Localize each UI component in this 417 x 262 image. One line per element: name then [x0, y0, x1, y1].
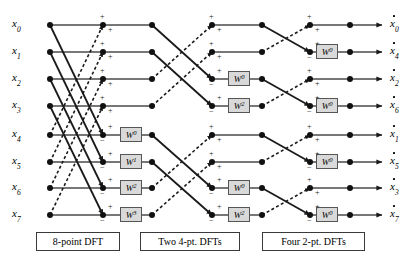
s1-plus-in-row0: + — [108, 26, 113, 34]
input-label-x3: x3 — [12, 98, 21, 113]
s3-plus-in-row2: + — [315, 80, 320, 88]
twiddle-exp-s3-r1: 0 — [329, 46, 332, 53]
s2-minus-row2: − — [209, 81, 214, 89]
input-label-x6-sub: 6 — [17, 188, 21, 197]
output-label-4-sub: 1 — [395, 135, 399, 144]
s3-plus-row6: + — [307, 176, 312, 184]
caption-two-4pt-dfts: Two 4-pt. DFTs — [140, 232, 240, 251]
s3-plus-row0: + — [307, 13, 312, 21]
s1-minus-row5: − — [100, 164, 105, 172]
twiddle-base-s3-r5: W — [322, 157, 330, 167]
s3-minus-row1: − — [307, 54, 312, 62]
twiddle-exp-s2-r6: 0 — [241, 182, 244, 189]
output-label-5: x5 — [390, 154, 399, 169]
s3-minus-row5: − — [307, 164, 312, 172]
s2-plus-row5: + — [209, 150, 214, 158]
stage2-out-node-row1 — [259, 49, 265, 55]
s1-plus-row4: + — [108, 123, 113, 131]
stage3-out-node-row3 — [347, 103, 353, 109]
stage3-node-row0 — [307, 22, 313, 28]
input-label-x2: x2 — [12, 71, 21, 86]
stage1-out-node-row3 — [149, 103, 155, 109]
twiddle-box-s2-r7: W2 — [228, 207, 250, 222]
twiddle-box-s2-r2: W0 — [228, 71, 250, 86]
twiddle-base-s2-r3: W — [234, 101, 242, 111]
output-label-3-sub: 6 — [395, 106, 399, 115]
input-node-row2 — [47, 76, 53, 82]
stage3-out-node-row1 — [347, 49, 353, 55]
stage1-out-node-row4 — [149, 132, 155, 138]
output-label-2-sub: 2 — [395, 79, 399, 88]
twiddle-box-s2-r3: W2 — [228, 98, 250, 113]
s3-plus-in-row4: + — [315, 136, 320, 144]
input-label-x0-sub: 0 — [17, 25, 21, 34]
output-label-6-sub: 3 — [395, 188, 399, 197]
caption-8-point-dft: 8-point DFT — [36, 232, 120, 251]
stage1-out-node-row1 — [149, 49, 155, 55]
input-node-row3 — [47, 103, 53, 109]
stage2-out-node-row3 — [259, 103, 265, 109]
s3-plus-row3: + — [315, 94, 320, 102]
input-label-x7-sub: 7 — [17, 215, 21, 224]
s3-plus-row1: + — [315, 40, 320, 48]
twiddle-exp-s3-r7: 0 — [329, 209, 332, 216]
caption-8-point-dft-text: 8-point DFT — [53, 236, 103, 247]
output-label-3: x6 — [390, 98, 399, 113]
input-label-x2-sub: 2 — [17, 79, 21, 88]
output-label-2: x2 — [390, 71, 399, 86]
s2-plus-row1: + — [209, 40, 214, 48]
input-label-x5-sub: 5 — [17, 162, 21, 171]
s1-plus-row6: + — [108, 176, 113, 184]
output-label-5-sub: 5 — [395, 162, 399, 171]
twiddle-exp-s1-r6: 2 — [133, 182, 136, 189]
s1-minus-row4: − — [100, 137, 105, 145]
twiddle-exp-s1-r7: 3 — [133, 209, 136, 216]
stage3-out-node-row6 — [347, 185, 353, 191]
output-label-7: x7 — [390, 207, 399, 222]
input-label-x6: x6 — [12, 180, 21, 195]
s3-plus-row5: + — [315, 150, 320, 158]
s1-plus-row7: + — [108, 203, 113, 211]
twiddle-base-s2-r6: W — [234, 183, 242, 193]
stage2-node-row1 — [209, 49, 215, 55]
stage1-out-node-row6 — [149, 185, 155, 191]
s1-plus-in-row3: + — [108, 107, 113, 115]
s2-plus-row2: + — [217, 67, 222, 75]
twiddle-exp-s3-r5: 0 — [329, 156, 332, 163]
stage1-out-node-row2 — [149, 76, 155, 82]
stage1-node-row3 — [100, 103, 106, 109]
input-label-x1-sub: 1 — [17, 52, 21, 61]
input-label-x0: x0 — [12, 17, 21, 32]
output-label-1-sub: 4 — [395, 52, 399, 61]
output-label-6: x3 — [390, 180, 399, 195]
stage2-out-node-row7 — [259, 212, 265, 218]
twiddle-base-s1-r6: W — [126, 183, 134, 193]
s1-plus-row2: + — [100, 67, 105, 75]
s2-plus-row3: + — [217, 94, 222, 102]
stage3-out-node-row2 — [347, 76, 353, 82]
caption-four-2pt-dfts-text: Four 2-pt. DFTs — [281, 236, 346, 247]
s1-minus-row6: − — [100, 190, 105, 198]
twiddle-base-s3-r3: W — [322, 101, 330, 111]
s3-minus-row3: − — [307, 108, 312, 116]
twiddle-box-s1-r6: W2 — [120, 180, 142, 195]
s1-plus-row3: + — [100, 94, 105, 102]
s2-minus-row3: − — [209, 108, 214, 116]
twiddle-box-s1-r7: W3 — [120, 207, 142, 222]
stage2-out-node-row2 — [259, 76, 265, 82]
s2-plus-in-row5: + — [217, 163, 222, 171]
input-node-row7 — [47, 212, 53, 218]
output-label-0: x0 — [390, 17, 399, 32]
stage2-node-row5 — [209, 159, 215, 165]
s1-plus-row1: + — [100, 40, 105, 48]
s1-plus-in-row2: + — [108, 80, 113, 88]
input-label-x4: x4 — [12, 127, 21, 142]
twiddle-base-s2-r7: W — [234, 210, 242, 220]
twiddle-base-s1-r7: W — [126, 210, 134, 220]
twiddle-exp-s1-r4: 0 — [133, 129, 136, 136]
stage1-out-node-row5 — [149, 159, 155, 165]
twiddle-exp-s2-r7: 2 — [241, 209, 244, 216]
s2-plus-in-row1: + — [217, 53, 222, 61]
s2-plus-row7: + — [217, 203, 222, 211]
s2-plus-row4: + — [209, 123, 214, 131]
